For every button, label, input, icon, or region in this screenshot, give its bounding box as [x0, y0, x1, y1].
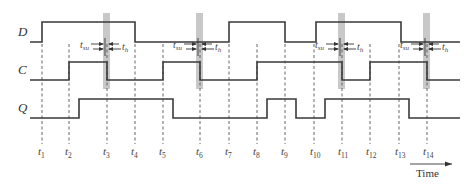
time-marker-label: t13	[395, 145, 406, 160]
time-axis: Time	[410, 162, 452, 180]
waveform-c	[30, 62, 460, 80]
hold-time-label: th	[442, 41, 449, 54]
setup-time-label: tsu	[400, 39, 410, 52]
timing-diagram: DCQ tsuthtsuthtsuthtsuth t1t2t3t4t5t6t7t…	[0, 0, 471, 184]
setup-time-label: tsu	[80, 39, 90, 52]
time-marker-label: t12	[366, 145, 377, 160]
signal-waveforms	[30, 22, 460, 118]
time-marker-lines	[42, 44, 427, 144]
time-marker-label: t14	[423, 145, 434, 160]
time-marker-label: t7	[225, 145, 232, 160]
time-marker-label: t2	[65, 145, 72, 160]
hold-time-label: th	[357, 41, 364, 54]
hold-time-label: th	[215, 41, 222, 54]
time-axis-label: Time	[416, 167, 439, 179]
time-marker-label: t1	[38, 145, 45, 160]
time-marker-labels: t1t2t3t4t5t6t7t8t9t10t11t12t13t14	[38, 145, 434, 160]
signal-label-c: C	[18, 62, 27, 77]
time-marker-label: t3	[103, 145, 110, 160]
time-marker-label: t11	[338, 145, 349, 160]
waveform-q	[30, 99, 460, 118]
time-marker-label: t4	[131, 145, 138, 160]
signal-labels: DCQ	[17, 24, 28, 115]
signal-label-d: D	[17, 24, 28, 39]
time-marker-label: t5	[159, 145, 166, 160]
signal-label-q: Q	[18, 100, 28, 115]
time-marker-label: t8	[253, 145, 260, 160]
time-marker-label: t6	[196, 145, 203, 160]
time-marker-label: t9	[281, 145, 288, 160]
time-arrow-head-icon	[445, 162, 452, 167]
setup-hold-windows	[103, 13, 430, 89]
time-marker-label: t10	[310, 145, 321, 160]
setup-time-label: tsu	[173, 39, 183, 52]
waveform-d	[30, 22, 460, 42]
hold-time-label: th	[122, 41, 129, 54]
setup-time-label: tsu	[315, 39, 325, 52]
